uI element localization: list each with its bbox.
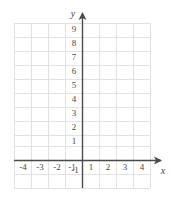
y-axis-name-label: y xyxy=(70,8,76,19)
y-tick-label: 3 xyxy=(72,108,77,118)
coordinate-plane-figure: y x 9 8 7 6 5 4 3 2 1 -1 -4 -3 -2 -1 1 2… xyxy=(0,0,171,197)
y-tick-label: 9 xyxy=(72,24,77,34)
x-tick-label: -4 xyxy=(19,162,27,172)
y-tick-label: 8 xyxy=(72,38,77,48)
y-tick-label: 7 xyxy=(72,52,77,62)
x-tick-label: -2 xyxy=(53,162,61,172)
x-tick-label: 3 xyxy=(123,162,128,172)
y-tick-label: 5 xyxy=(72,80,77,90)
y-tick-label: 1 xyxy=(72,136,77,146)
x-tick-label: 4 xyxy=(140,162,145,172)
x-tick-label: -3 xyxy=(36,162,44,172)
y-tick-label: 2 xyxy=(72,122,77,132)
coordinate-plane-svg: y x 9 8 7 6 5 4 3 2 1 -1 -4 -3 -2 -1 1 2… xyxy=(0,0,171,197)
x-axis-name-label: x xyxy=(160,165,166,176)
y-tick-label: 4 xyxy=(72,94,77,104)
x-tick-label: 1 xyxy=(89,162,94,172)
y-tick-label: 6 xyxy=(72,66,77,76)
x-tick-label: -1 xyxy=(68,162,76,172)
x-tick-label: 2 xyxy=(106,162,111,172)
